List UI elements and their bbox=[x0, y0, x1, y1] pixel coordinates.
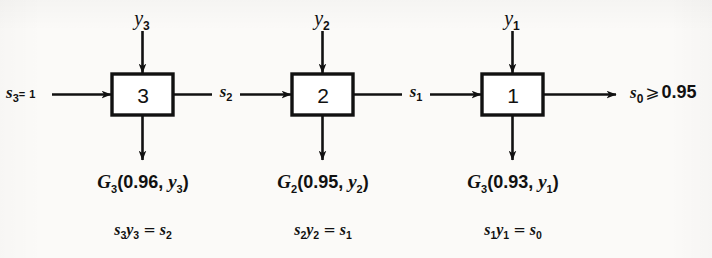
stage-2-equation: s2y2=s1 bbox=[294, 222, 352, 241]
stage-box-1-number: 1 bbox=[507, 85, 519, 106]
flow-label-s2: s2 bbox=[220, 83, 233, 103]
stage-1-equation: s1y1=s0 bbox=[484, 222, 542, 241]
stage-box-2-number: 2 bbox=[317, 85, 329, 106]
stage-3-input-label: y3 bbox=[134, 8, 150, 32]
diagram-lines-layer bbox=[0, 0, 712, 258]
stage-1-input-label: y1 bbox=[504, 8, 520, 32]
sink-label: s0⩾0.95 bbox=[630, 83, 697, 104]
flow-label-s1: s1 bbox=[410, 83, 423, 103]
greater-equal-icon: ⩾ bbox=[643, 82, 661, 102]
stage-box-3-number: 3 bbox=[137, 85, 149, 106]
source-label: s3= 1 bbox=[6, 84, 36, 104]
stage-3-equation: s3y3=s2 bbox=[114, 222, 172, 241]
stage-2-input-label: y2 bbox=[314, 8, 330, 32]
stage-3-return-label: G3(0.96, y3) bbox=[97, 172, 188, 195]
diagram-canvas: y3 y2 y1 3 2 1 s3= 1 s2 s1 s0⩾0.95 G3(0.… bbox=[0, 0, 712, 258]
stage-1-return-label: G3(0.93, y1) bbox=[467, 172, 558, 195]
stage-2-return-label: G2(0.95, y2) bbox=[277, 172, 368, 195]
